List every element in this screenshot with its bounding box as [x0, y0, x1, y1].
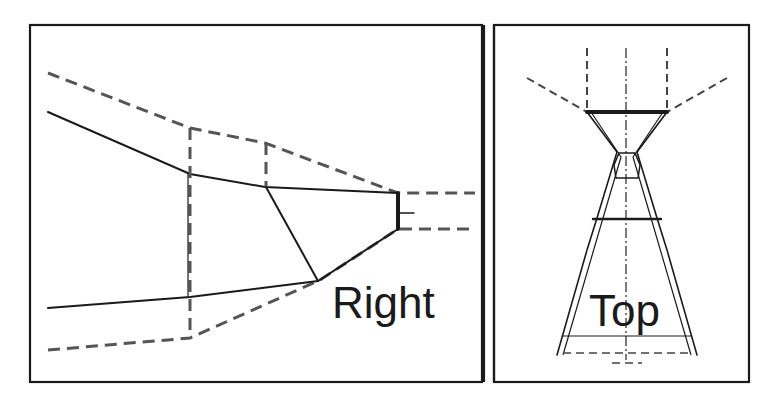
right-view-frame	[30, 25, 482, 382]
top-view-label: Top	[589, 286, 660, 335]
left-wing-dashed	[527, 78, 587, 112]
right-view-panel: Right	[30, 25, 482, 382]
right-view-label: Right	[332, 278, 435, 327]
upper-dashed-envelope	[48, 73, 475, 193]
diagonal-brace	[266, 187, 318, 281]
right-wing-dashed	[667, 78, 727, 112]
diagram-canvas: Right Top	[0, 0, 775, 397]
upper-solid-body	[48, 112, 398, 193]
top-view-panel: Top	[494, 25, 749, 382]
